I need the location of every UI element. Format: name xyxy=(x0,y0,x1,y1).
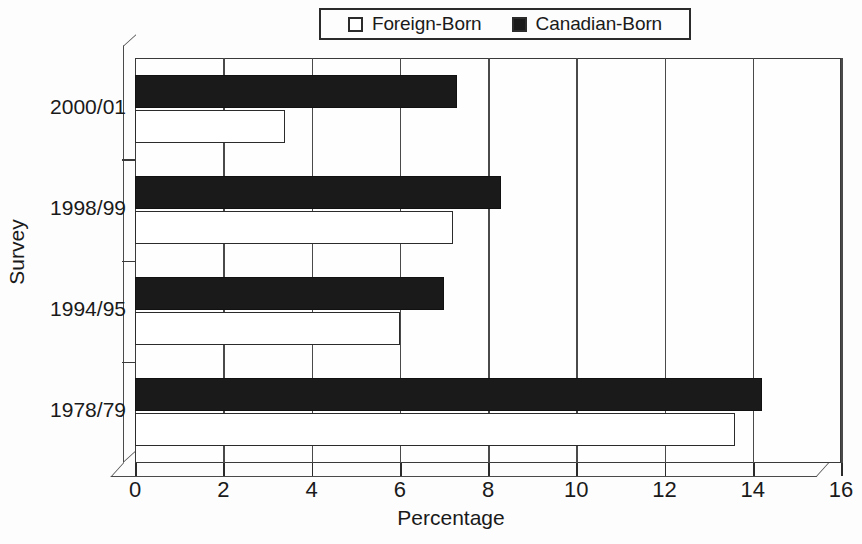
x-ticklabel-4: 4 xyxy=(305,477,317,503)
x-tick-6 xyxy=(400,463,402,476)
x-ticklabel-6: 6 xyxy=(394,477,406,503)
x-tick-4 xyxy=(312,463,314,476)
x-ticklabel-8: 8 xyxy=(482,477,494,503)
open-square-icon xyxy=(348,17,363,32)
x-tick-8 xyxy=(488,463,490,476)
y-axis-title: Survey xyxy=(5,192,29,312)
x-axis-title: Percentage xyxy=(0,506,862,530)
x-ticklabel-0: 0 xyxy=(129,477,141,503)
x-tick-10 xyxy=(576,463,578,476)
value-axis-ticklabels: 0246810121416 xyxy=(135,477,841,505)
bar-foreign-born-1994-95 xyxy=(135,312,400,345)
x-tick-16 xyxy=(841,463,843,476)
bar-foreign-born-2000-01 xyxy=(135,110,285,143)
x-ticklabel-10: 10 xyxy=(564,477,588,503)
category-label-2000-01: 2000/01 xyxy=(50,95,126,119)
category-label-1994-95: 1994/95 xyxy=(50,297,126,321)
bar-foreign-born-1978-79 xyxy=(135,413,735,446)
filled-square-icon xyxy=(512,17,527,32)
legend-label-foreign-born: Foreign-Born xyxy=(372,13,482,35)
x-tick-12 xyxy=(665,463,667,476)
bar-foreign-born-1998-99 xyxy=(135,211,453,244)
chart-plot-area xyxy=(135,58,841,463)
category-label-1978-79: 1978/79 xyxy=(50,398,126,422)
x-tick-14 xyxy=(753,463,755,476)
x-ticklabel-14: 14 xyxy=(741,477,765,503)
x-tick-2 xyxy=(223,463,225,476)
x-ticklabel-12: 12 xyxy=(652,477,676,503)
value-axis-ticks xyxy=(135,463,841,477)
category-label-1998-99: 1998/99 xyxy=(50,196,126,220)
legend-entry-foreign-born: Foreign-Born xyxy=(348,13,482,35)
chart-legend: Foreign-Born Canadian-Born xyxy=(319,8,691,40)
x-axis-title-text: Percentage xyxy=(357,506,504,529)
x-tick-0 xyxy=(135,463,137,476)
x-ticklabel-2: 2 xyxy=(217,477,229,503)
gridline-16 xyxy=(841,58,843,463)
legend-label-canadian-born: Canadian-Born xyxy=(536,13,663,35)
x-ticklabel-16: 16 xyxy=(829,477,853,503)
legend-entry-canadian-born: Canadian-Born xyxy=(512,13,663,35)
